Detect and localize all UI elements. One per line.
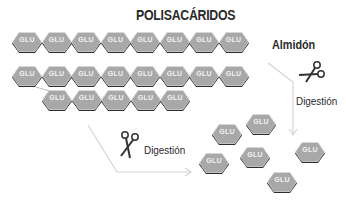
glucose-unit-chain-2: GLU [189,66,219,88]
glu-label: GLU [160,70,190,77]
glu-label: GLU [72,94,102,101]
digestion-label-right: Digestión [296,95,337,107]
glucose-unit-chain-2: GLU [160,66,190,88]
glu-label: GLU [131,94,161,101]
glucose-unit-chain-1: GLU [189,32,219,54]
glu-label: GLU [101,94,131,101]
glu-label: GLU [42,36,72,43]
scissors-icon [298,60,326,84]
glu-label: GLU [71,36,101,43]
glu-label: GLU [12,36,42,43]
glucose-unit-chain-3-branch: GLU [160,90,190,112]
glucose-unit-chain-1: GLU [219,32,249,54]
glucose-unit-chain-2: GLU [42,66,72,88]
glucose-unit-chain-1: GLU [12,32,42,54]
glucose-unit-chain-1: GLU [160,32,190,54]
free-glucose-unit: GLU [246,114,276,136]
glu-label: GLU [240,151,270,158]
glu-label: GLU [219,36,249,43]
glu-label: GLU [267,176,297,183]
glu-label: GLU [42,70,72,77]
glu-label: GLU [160,36,190,43]
glucose-unit-chain-3-branch: GLU [72,90,102,112]
polysaccharide-diagram: POLISACÁRIDOS Almidón Digestión Digestió… [0,0,346,209]
glu-label: GLU [130,70,160,77]
glu-label: GLU [42,94,72,101]
glu-label: GLU [219,70,249,77]
glu-label: GLU [189,70,219,77]
glu-label: GLU [199,157,229,164]
glucose-unit-chain-2: GLU [71,66,101,88]
glucose-unit-chain-1: GLU [71,32,101,54]
diagram-title: POLISACÁRIDOS [136,7,235,23]
glucose-unit-chain-3-branch: GLU [131,90,161,112]
glu-label: GLU [212,128,242,135]
glucose-unit-chain-2: GLU [101,66,131,88]
glucose-unit-chain-2: GLU [12,66,42,88]
digestion-label-bottom: Digestión [144,144,185,156]
glu-label: GLU [12,70,42,77]
free-glucose-unit: GLU [212,124,242,146]
glu-label: GLU [101,70,131,77]
scissors-icon [118,130,142,160]
glu-label: GLU [246,118,276,125]
glucose-unit-chain-1: GLU [130,32,160,54]
glucose-unit-chain-1: GLU [101,32,131,54]
glucose-unit-chain-2: GLU [130,66,160,88]
glucose-unit-chain-3-branch: GLU [42,90,72,112]
free-glucose-unit: GLU [240,147,270,169]
glu-label: GLU [160,94,190,101]
glucose-unit-chain-1: GLU [42,32,72,54]
glucose-unit-chain-3-branch: GLU [101,90,131,112]
starch-label: Almidón [272,38,315,52]
glucose-unit-chain-2: GLU [219,66,249,88]
glu-label: GLU [189,36,219,43]
glu-label: GLU [130,36,160,43]
glu-label: GLU [71,70,101,77]
free-glucose-unit: GLU [295,142,325,164]
glu-label: GLU [295,146,325,153]
glu-label: GLU [101,36,131,43]
free-glucose-unit: GLU [199,153,229,175]
free-glucose-unit: GLU [267,172,297,194]
